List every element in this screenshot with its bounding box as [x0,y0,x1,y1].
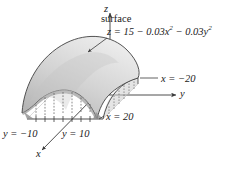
equation-exponent-2: 2 [208,24,212,32]
x-positive-bound-label: x = 20 [106,111,134,122]
y-negative-bound-label: y = −10 [3,128,38,139]
surface-plot-figure: surface z = 15 − 0.03x2 − 0.03y2 x = −20… [0,0,231,169]
equation-part-1: z = 15 − 0.03x [107,26,169,37]
y-positive-bound-label: y = 10 [62,128,90,139]
x-axis-label: x [36,148,41,159]
surface-caption-label: surface [101,13,131,24]
x-negative-bound-label: x = −20 [161,73,196,84]
surface-equation-label: z = 15 − 0.03x2 − 0.03y2 [107,25,212,37]
z-axis-label: z [104,3,108,14]
y-axis-label: y [180,88,185,99]
equation-part-2: − 0.03y [173,26,208,37]
